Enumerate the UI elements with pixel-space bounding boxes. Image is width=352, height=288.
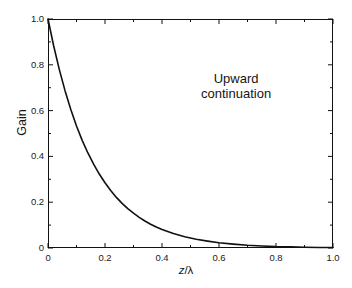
plot-annotation-line-2: continuation [161,86,311,102]
figure-upward-continuation-gain: 00.20.40.60.81.0 00.20.40.60.81.0 Gain z… [0,0,352,288]
x-tick-label: 0.6 [199,253,239,263]
y-axis-title: Gain [16,83,29,163]
x-tick-label: 0.8 [256,253,296,263]
plot-annotation: Upward continuation [161,71,311,102]
x-axis-title-denominator: λ [188,264,194,276]
x-tick-label: 0.2 [85,253,125,263]
plot-annotation-line-1: Upward [161,71,311,87]
x-tick-label: 0.4 [142,253,182,263]
x-tick-label: 0 [28,253,68,263]
x-axis-title: z/λ [150,264,222,277]
x-tick-label: 1.0 [313,253,352,263]
x-axis-tick-labels: 00.20.40.60.81.0 [0,0,352,288]
